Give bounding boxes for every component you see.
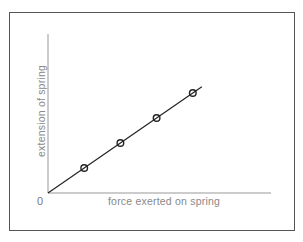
fit-line <box>48 87 202 193</box>
origin-label: 0 <box>37 195 43 207</box>
y-axis-label: extension of spring <box>35 65 47 157</box>
x-axis-label: force exerted on spring <box>108 195 220 207</box>
